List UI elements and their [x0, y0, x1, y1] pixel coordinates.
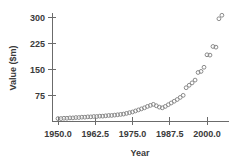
- scatter-chart: 75150225300 1950.01962.51975.01987.52000…: [0, 0, 236, 164]
- x-axis-tick-label: 1987.5: [156, 129, 184, 139]
- data-point: [193, 78, 197, 82]
- y-axis-tick-label: 75: [35, 91, 45, 101]
- x-axis: 1950.01962.51975.01987.52000.0: [44, 117, 229, 139]
- y-axis-title: Value ($m): [8, 45, 18, 90]
- data-point: [181, 93, 185, 97]
- x-axis-title: Year: [130, 148, 150, 158]
- x-axis-tick-label: 1950.0: [44, 129, 72, 139]
- y-axis-tick-label: 225: [30, 39, 45, 49]
- data-points: [56, 13, 224, 120]
- data-point: [202, 65, 206, 69]
- x-axis-tick-label: 1975.0: [119, 129, 147, 139]
- chart-plot-area: 75150225300 1950.01962.51975.01987.52000…: [0, 0, 236, 164]
- x-axis-tick-label: 2000.0: [193, 129, 221, 139]
- data-point: [220, 13, 224, 17]
- y-axis-tick-label: 300: [30, 13, 45, 23]
- data-point: [217, 17, 221, 21]
- y-axis: 75150225300: [30, 13, 56, 123]
- x-axis-tick-label: 1962.5: [81, 129, 109, 139]
- y-axis-tick-label: 150: [30, 65, 45, 75]
